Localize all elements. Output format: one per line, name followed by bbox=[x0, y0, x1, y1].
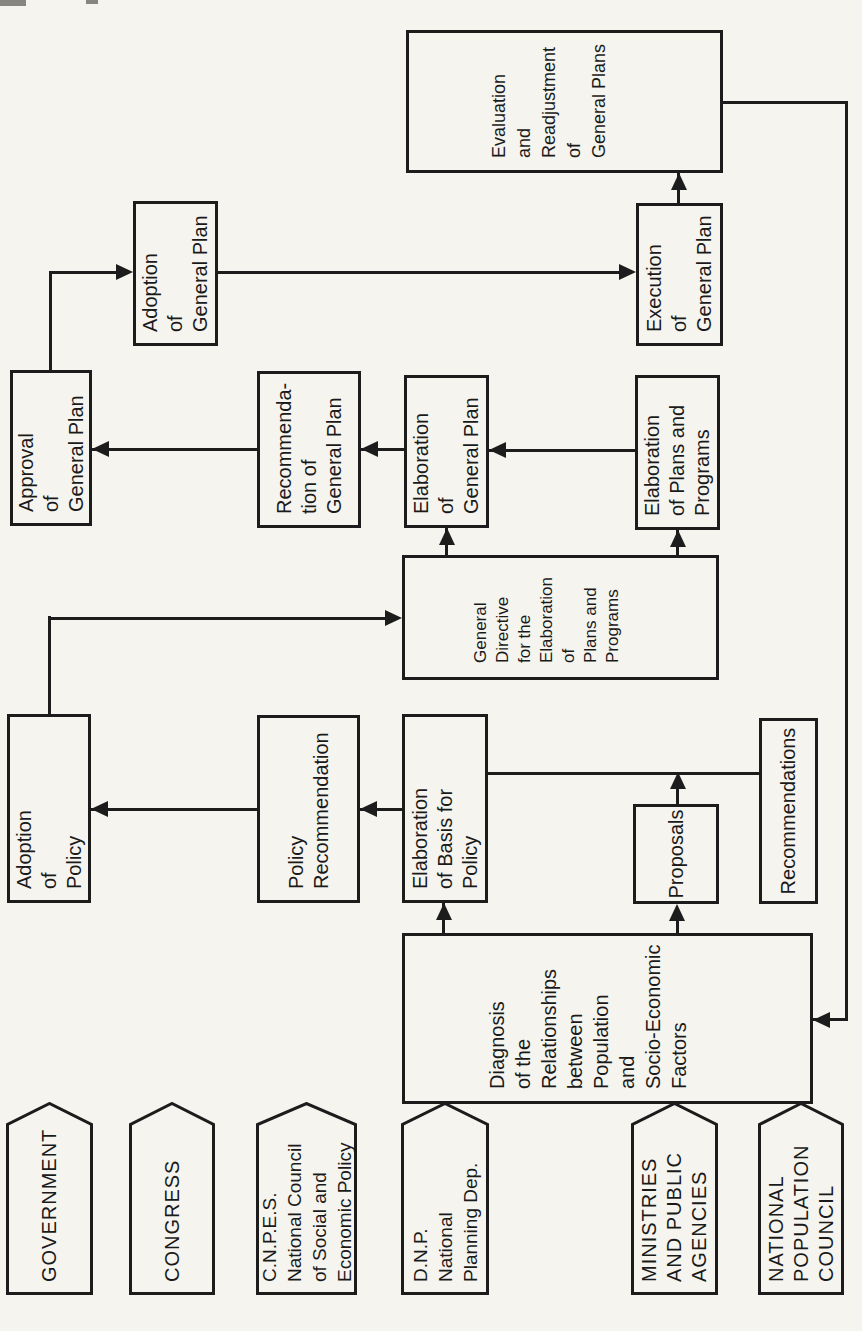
lane-tag-ministries: MINISTRIES AND PUBLIC AGENCIES bbox=[631, 1102, 718, 1295]
box-approval-of-general-plan: Approval of General Plan bbox=[10, 370, 92, 526]
box-policy-recommendation: Policy Recommendation bbox=[257, 715, 360, 903]
connector-approval-to-adoption-general-plan-seg1 bbox=[49, 271, 52, 370]
box-elaboration-general-plan-text: Elaboration of General Plan bbox=[409, 397, 484, 525]
arrowhead-into-evaluation-readjustment bbox=[671, 173, 687, 190]
connector-recommendation-general-plan-to-approval-general-plan bbox=[92, 448, 257, 451]
box-adoption-of-policy: Adoption of Policy bbox=[7, 714, 91, 903]
connector-adoption-policy-to-general-directive-seg1 bbox=[48, 616, 51, 714]
lane-label-cnpes: C.N.P.E.S. National Council of Social an… bbox=[256, 1143, 357, 1282]
box-elaboration-basis-text: Elaboration of Basis for Policy bbox=[408, 788, 483, 900]
box-recommendation-of-general-plan: Recommenda- tion of General Plan bbox=[257, 371, 361, 528]
box-elaboration-plans-programs-text: Elaboration of Plans and Programs bbox=[640, 405, 715, 527]
box-adoption-general-plan-text: Adoption of General Plan bbox=[138, 215, 213, 343]
lane-tag-national-population-council: NATIONAL POPULATION COUNCIL bbox=[758, 1102, 844, 1295]
box-diagnosis: Diagnosis of the Relationships between P… bbox=[402, 933, 813, 1104]
box-evaluation-and-readjustment: Evaluation and Readjustment of General P… bbox=[406, 30, 723, 173]
connector-adoption-policy-to-general-directive-seg2 bbox=[48, 617, 393, 620]
arrowhead-into-recommendation-general-plan bbox=[361, 441, 378, 457]
connector-recommendations-junction bbox=[488, 772, 759, 775]
box-proposals-text: Proposals bbox=[664, 810, 689, 899]
box-adoption-policy-text: Adoption of Policy bbox=[12, 810, 87, 900]
flowchart-canvas: GOVERNMENT CONGRESS C.N.P.E.S. National … bbox=[0, 0, 862, 1331]
box-policy-recommendation-text: Policy Recommendation bbox=[284, 732, 334, 900]
arrowhead-into-proposals bbox=[669, 904, 685, 921]
lane-tag-cnpes: C.N.P.E.S. National Council of Social an… bbox=[256, 1102, 357, 1295]
lane-tag-dnp: D.N.P. National Planning Dep. bbox=[401, 1102, 489, 1295]
connector-feedback-seg2 bbox=[845, 101, 848, 1020]
lane-tag-government: GOVERNMENT bbox=[6, 1102, 93, 1295]
arrowhead-into-adoption-general-plan bbox=[116, 264, 133, 280]
lane-label-government: GOVERNMENT bbox=[6, 1129, 93, 1282]
scanned-flowchart-page: GOVERNMENT CONGRESS C.N.P.E.S. National … bbox=[0, 0, 862, 1331]
box-general-directive-text: General Directive for the Elaboration of… bbox=[470, 577, 624, 677]
box-evaluation-readjustment-text: Evaluation and Readjustment of General P… bbox=[487, 44, 612, 170]
arrowhead-into-elaboration-general-plan bbox=[439, 528, 455, 545]
arrowhead-into-elaboration-basis bbox=[436, 903, 452, 920]
box-recommendations-text: Recommendations bbox=[776, 728, 801, 895]
box-execution-of-general-plan: Execution of General Plan bbox=[636, 203, 723, 346]
connector-feedback-seg1 bbox=[723, 101, 847, 104]
arrowhead-into-adoption-policy bbox=[91, 801, 108, 817]
arrowhead-into-elaboration-plans-programs bbox=[670, 530, 686, 547]
lane-tag-congress: CONGRESS bbox=[129, 1102, 215, 1295]
box-elaboration-of-plans-and-programs: Elaboration of Plans and Programs bbox=[635, 375, 720, 530]
arrowhead-into-approval-general-plan bbox=[92, 441, 109, 457]
lane-label-national-population-council: NATIONAL POPULATION COUNCIL bbox=[758, 1145, 844, 1282]
box-recommendations: Recommendations bbox=[759, 718, 818, 904]
arrowhead-into-general-directive bbox=[385, 610, 402, 626]
connector-elaboration-plans-programs-to-elaboration-general-plan bbox=[489, 449, 635, 452]
lane-label-ministries: MINISTRIES AND PUBLIC AGENCIES bbox=[631, 1152, 718, 1282]
box-general-directive: General Directive for the Elaboration of… bbox=[402, 555, 719, 680]
arrowhead-into-execution-general-plan bbox=[619, 264, 636, 280]
arrowhead-plans-into-elaboration-general-plan bbox=[489, 442, 506, 458]
box-elaboration-of-general-plan: Elaboration of General Plan bbox=[404, 375, 489, 528]
connector-policy-recommendation-to-adoption-policy bbox=[91, 808, 257, 811]
connector-adoption-general-plan-to-execution bbox=[218, 271, 623, 274]
connector-approval-to-adoption-general-plan-seg2 bbox=[49, 271, 124, 274]
box-execution-general-plan-text: Execution of General Plan bbox=[642, 215, 717, 343]
box-adoption-of-general-plan: Adoption of General Plan bbox=[133, 201, 218, 346]
arrowhead-proposals-into-junction bbox=[670, 772, 686, 789]
lane-label-dnp: D.N.P. National Planning Dep. bbox=[401, 1163, 489, 1282]
box-diagnosis-text: Diagnosis of the Relationships between P… bbox=[484, 944, 692, 1101]
box-elaboration-of-basis-for-policy: Elaboration of Basis for Policy bbox=[402, 714, 488, 903]
box-approval-general-plan-text: Approval of General Plan bbox=[14, 395, 89, 523]
lane-label-congress: CONGRESS bbox=[129, 1160, 215, 1282]
arrowhead-feedback-into-diagnosis bbox=[813, 1012, 830, 1028]
box-proposals: Proposals bbox=[633, 804, 719, 904]
arrowhead-into-policy-recommendation bbox=[360, 801, 377, 817]
box-recommendation-general-plan-text: Recommenda- tion of General Plan bbox=[272, 383, 347, 525]
